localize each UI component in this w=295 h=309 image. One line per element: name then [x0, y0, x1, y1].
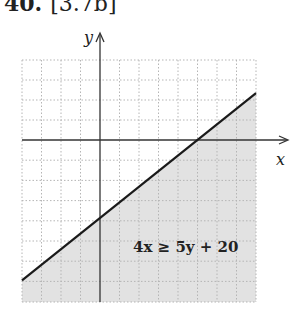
inequality-label: 4x ≥ 5y + 20 — [133, 238, 238, 256]
inequality-graph: y x 4x ≥ 5y + 20 — [0, 0, 295, 309]
y-axis-label: y — [83, 28, 94, 47]
x-axis-label: x — [276, 150, 285, 169]
